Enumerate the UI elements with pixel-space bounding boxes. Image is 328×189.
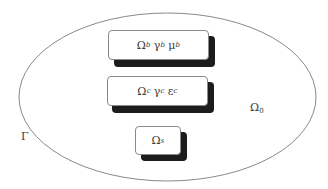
boundary-label: Γ	[21, 130, 29, 143]
region-b: Ωbγbμb	[108, 30, 215, 67]
region-c-term-3-subscript: c	[174, 87, 178, 95]
region-s-term-1-subscript: s	[161, 137, 165, 145]
region-s: Ωs	[135, 126, 187, 161]
region-c-term-1-symbol: Ω	[137, 85, 146, 98]
region-s-term-1-symbol: Ω	[151, 134, 160, 147]
region-b-term-3-subscript: b	[176, 41, 181, 49]
outer-domain-label: Ω0	[250, 101, 264, 115]
region-b-box: Ωbγbμb	[108, 30, 209, 60]
boundary-symbol: Γ	[21, 130, 29, 143]
region-b-term-1-subscript: b	[146, 41, 151, 49]
region-b-term-1-symbol: Ω	[137, 39, 146, 52]
region-s-box: Ωs	[135, 126, 181, 155]
outer-domain-symbol: Ω	[250, 101, 259, 114]
region-b-term-3-symbol: μ	[168, 39, 175, 52]
domain-diagram: Ωbγbμb Ωcγcεc Ωs Ω0 Γ	[0, 0, 328, 189]
region-c: Ωcγcεc	[107, 76, 214, 113]
outer-domain-subscript: 0	[259, 107, 263, 115]
region-c-box: Ωcγcεc	[107, 76, 208, 106]
region-b-term-2-symbol: γ	[154, 39, 161, 52]
region-c-term-2-subscript: c	[161, 87, 165, 95]
region-b-term-2-subscript: b	[161, 41, 166, 49]
region-c-term-2-symbol: γ	[154, 85, 161, 98]
region-c-term-1-subscript: c	[147, 87, 151, 95]
